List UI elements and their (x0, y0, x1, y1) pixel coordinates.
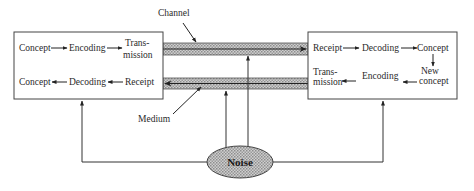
receiver-transmission-label-2: mission (313, 77, 343, 87)
sender-concept2-label: Concept (19, 77, 51, 87)
upper-channel (163, 43, 308, 55)
sender-transmission-label-1: Trans- (125, 38, 149, 48)
receiver-decoding-label: Decoding (362, 43, 399, 53)
medium-label: Medium (138, 114, 171, 124)
receiver-encoding-label: Encoding (362, 71, 399, 81)
receiver-concept2-label: concept (419, 76, 449, 86)
receiver-new-label: New (421, 66, 439, 76)
noise-node: Noise (207, 146, 273, 178)
receiver-concept-label: Concept (417, 43, 449, 53)
channel-label: Channel (158, 8, 190, 18)
sender-transmission-label-2: mission (123, 50, 153, 60)
channel-pointer-arrow (183, 23, 196, 42)
noise-label: Noise (227, 156, 253, 168)
communication-diagram: Concept Encoding Trans- mission Concept … (0, 0, 474, 191)
receiver-transmission-label-1: Trans- (313, 67, 337, 77)
receiver-box: Receipt Decoding Concept Trans- mission … (308, 32, 457, 99)
lower-channel (163, 78, 308, 89)
sender-decoding-label: Decoding (69, 77, 106, 87)
receiver-receipt-label: Receipt (313, 43, 342, 53)
medium-pointer-arrow (173, 87, 201, 114)
sender-concept-label: Concept (19, 43, 51, 53)
sender-encoding-label: Encoding (69, 43, 106, 53)
sender-box: Concept Encoding Trans- mission Concept … (14, 32, 163, 99)
sender-receipt-label: Receipt (125, 77, 154, 87)
